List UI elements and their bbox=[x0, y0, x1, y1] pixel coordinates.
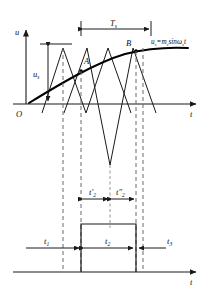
svg-text:us=mssinωst: us=mssinωst bbox=[151, 38, 187, 47]
label-point-a: A bbox=[83, 56, 90, 66]
dimension-t2-prime: t′2 bbox=[83, 187, 108, 199]
modulation-sine-curve bbox=[29, 48, 188, 103]
label-point-b: B bbox=[126, 38, 131, 48]
t2-sub: 2 bbox=[107, 241, 110, 247]
t3-sub: 3 bbox=[168, 241, 172, 247]
label-t-axis-top: t bbox=[190, 109, 193, 119]
equation-label: us=mssinωst bbox=[151, 38, 187, 47]
pwm-waveform-diagram: A B us=mssinωst u O t Ts bbox=[0, 0, 224, 293]
t2p-sub: 2 bbox=[93, 192, 96, 198]
dimension-period-ts: Ts bbox=[81, 18, 151, 36]
figure-root: A B us=mssinωst u O t Ts bbox=[0, 0, 224, 293]
svg-text:t′2: t′2 bbox=[89, 187, 96, 198]
dimension-t1: t1 bbox=[26, 236, 79, 248]
svg-text:t2: t2 bbox=[105, 236, 110, 247]
dimension-t2: t2 bbox=[84, 236, 133, 248]
label-u-axis: u bbox=[15, 27, 19, 37]
us-sub: s bbox=[37, 74, 39, 80]
svg-text:Ts: Ts bbox=[110, 18, 117, 29]
t1-sub: 1 bbox=[46, 241, 49, 247]
svg-text:t1: t1 bbox=[44, 236, 49, 247]
dimension-amplitude-us: us bbox=[33, 44, 72, 101]
dimension-t3: t3 bbox=[139, 236, 172, 248]
svg-text:t″2: t″2 bbox=[116, 187, 125, 198]
ts-sub: s bbox=[115, 23, 117, 29]
carrier-triangle-wave-2 bbox=[64, 48, 156, 165]
label-t-axis-bottom: t bbox=[190, 277, 193, 287]
t2dp-sub: 2 bbox=[122, 192, 125, 198]
label-origin: O bbox=[16, 109, 22, 119]
svg-text:t3: t3 bbox=[167, 236, 172, 247]
eq-var: t bbox=[184, 38, 187, 46]
dimension-t2-double-prime: t″2 bbox=[112, 187, 134, 199]
svg-text:us: us bbox=[33, 69, 39, 80]
